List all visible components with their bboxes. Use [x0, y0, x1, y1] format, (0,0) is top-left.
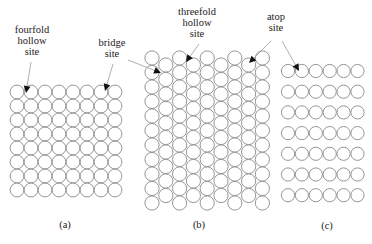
atom-circle [24, 113, 38, 127]
threefold-label-line: threefold [178, 6, 217, 17]
atom-circle [38, 85, 52, 99]
atom-circle [255, 123, 269, 137]
atom-circle [186, 159, 200, 173]
atom-circle [66, 99, 80, 113]
atom-circle [80, 155, 94, 169]
atom-circle [309, 64, 322, 77]
atom-circle [228, 123, 242, 137]
atom-circle [108, 85, 122, 99]
atom-circle [10, 183, 24, 197]
atom-circle [52, 155, 66, 169]
atom-circle [214, 174, 228, 188]
atom-circle [159, 58, 173, 72]
threefold-site-label: threefoldhollowsite [178, 6, 217, 39]
figure-canvas: fourfoldhollowsitebridgesitethreefoldhol… [0, 0, 372, 244]
atom-circle [108, 183, 122, 197]
atom-circle [80, 113, 94, 127]
atom-circle [281, 168, 294, 181]
atom-circle [159, 87, 173, 101]
atom-circle [52, 169, 66, 183]
atom-circle [323, 127, 336, 140]
panel-c-caption: (c) [321, 220, 333, 232]
atom-circle [94, 155, 108, 169]
atom-circle [159, 159, 173, 173]
atom-circle [145, 152, 159, 166]
atom-circle [108, 99, 122, 113]
atom-circle [242, 130, 256, 144]
atom-circle [200, 196, 214, 210]
atom-circle [38, 141, 52, 155]
atom-circle [10, 113, 24, 127]
atom-circle [214, 87, 228, 101]
atom-circle [351, 64, 364, 77]
atom-circle [242, 188, 256, 202]
atom-circle [24, 141, 38, 155]
atom-circle [214, 101, 228, 115]
atom-circle [351, 127, 364, 140]
atom-circle [255, 138, 269, 152]
atom-circle [323, 64, 336, 77]
atom-circle [228, 94, 242, 108]
atom-circle [281, 106, 294, 119]
adsorption-sites-figure: fourfoldhollowsitebridgesitethreefoldhol… [0, 0, 372, 244]
atom-circle [255, 51, 269, 65]
atom-circle [351, 147, 364, 160]
atom-circle [186, 87, 200, 101]
atom-circle [145, 51, 159, 65]
atom-circle [200, 109, 214, 123]
atom-circle [214, 130, 228, 144]
atom-circle [108, 141, 122, 155]
atom-circle [145, 181, 159, 195]
atom-circle [173, 138, 187, 152]
atom-circle [281, 147, 294, 160]
atom-circle [80, 127, 94, 141]
atom-circle [66, 183, 80, 197]
atom-circle [159, 130, 173, 144]
atom-circle [255, 152, 269, 166]
atom-circle [24, 169, 38, 183]
bridge-label-line: site [105, 48, 120, 59]
leader-line [27, 62, 31, 86]
atom-circle [351, 189, 364, 202]
atom-circle [80, 99, 94, 113]
fourfold-label-line: fourfold [15, 24, 50, 35]
atom-circle [228, 196, 242, 210]
atom-circle [24, 155, 38, 169]
atom-circle [323, 106, 336, 119]
atom-circle [214, 58, 228, 72]
atom-circle [337, 85, 350, 98]
atom-circle [186, 188, 200, 202]
atom-circle [295, 106, 308, 119]
atom-circle [351, 106, 364, 119]
atom-circle [38, 183, 52, 197]
atom-circle [10, 169, 24, 183]
atom-circle [309, 127, 322, 140]
panel-c-row-lattice [281, 64, 364, 201]
atom-circle [200, 181, 214, 195]
atom-circle [66, 85, 80, 99]
atom-circle [228, 167, 242, 181]
atom-circle [94, 127, 108, 141]
atom-circle [173, 196, 187, 210]
atom-circle [351, 168, 364, 181]
atom-circle [309, 85, 322, 98]
threefold-label-line: site [190, 28, 205, 39]
atom-circle [323, 168, 336, 181]
atom-circle [323, 85, 336, 98]
atom-circle [228, 152, 242, 166]
atom-circle [173, 65, 187, 79]
atom-circle [10, 85, 24, 99]
atom-circle [228, 109, 242, 123]
atom-circle [337, 127, 350, 140]
atom-circle [242, 101, 256, 115]
atom-circle [145, 80, 159, 94]
atom-circle [52, 141, 66, 155]
atom-circle [255, 94, 269, 108]
atom-circle [281, 85, 294, 98]
atom-circle [38, 99, 52, 113]
atom-circle [295, 127, 308, 140]
atom-circle [52, 99, 66, 113]
atom-circle [66, 127, 80, 141]
atom-circle [10, 141, 24, 155]
atom-circle [337, 168, 350, 181]
